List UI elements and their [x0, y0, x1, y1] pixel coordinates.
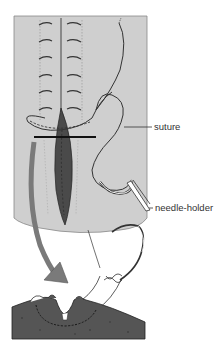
tissue — [12, 297, 145, 339]
label-suture: suture — [154, 122, 180, 132]
suture-illustration — [0, 0, 220, 349]
label-needle-holder: needle-holder — [155, 203, 213, 213]
